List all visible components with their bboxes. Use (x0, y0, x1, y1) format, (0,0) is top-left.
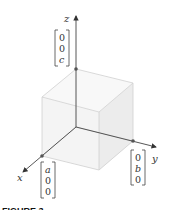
point-a (40, 154, 44, 158)
c-vector: 0 0 c (55, 30, 69, 66)
a-vector-entry-2: 0 (45, 175, 51, 186)
a-vector-entry-1: a (45, 164, 51, 175)
box-diagram: z y x 0 0 c a 0 0 0 b 0 FIGURE 3 (0, 0, 173, 210)
y-axis-label: y (151, 153, 158, 164)
b-vector-entry-3: 0 (135, 174, 141, 185)
b-vector-entry-1: 0 (135, 152, 141, 163)
a-vector: a 0 0 (41, 162, 55, 198)
point-c (74, 67, 78, 71)
x-axis-label: x (17, 172, 23, 183)
a-vector-entry-3: 0 (45, 186, 51, 197)
b-vector: 0 b 0 (131, 150, 145, 185)
z-axis-label: z (63, 13, 70, 24)
c-vector-entry-1: 0 (59, 32, 65, 43)
c-vector-entry-3: c (59, 54, 65, 65)
b-vector-entry-2: b (135, 163, 141, 174)
figure-caption: FIGURE 3 (2, 206, 44, 210)
box (42, 69, 133, 170)
c-vector-entry-2: 0 (59, 43, 65, 54)
point-b (131, 139, 135, 143)
